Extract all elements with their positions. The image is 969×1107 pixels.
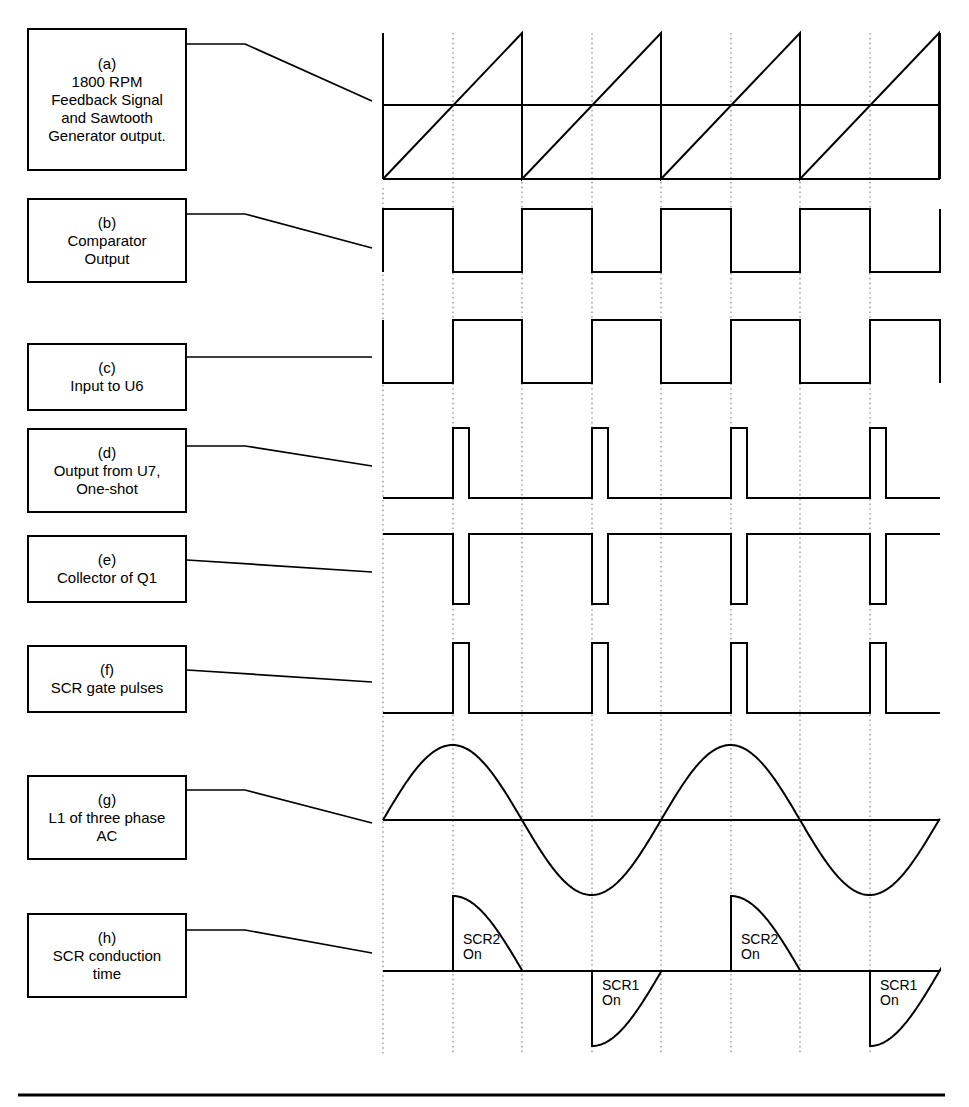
- label-c-line-1: Input to U6: [70, 377, 143, 395]
- waveform-b-comparator-output: [383, 209, 940, 272]
- label-e-tag: (e): [98, 551, 116, 569]
- scr-tag-4-state: On: [880, 993, 917, 1008]
- label-b-line-1: Comparator: [67, 232, 146, 250]
- label-b-line-2: Output: [84, 250, 129, 268]
- scr-tag-2-name: SCR1: [602, 978, 639, 993]
- leader-line-a: [187, 44, 372, 101]
- leader-line-d: [187, 446, 372, 466]
- waveform-g-ac-sine: [383, 745, 940, 895]
- label-e-line-1: Collector of Q1: [57, 569, 157, 587]
- label-box-b: (b) Comparator Output: [27, 198, 187, 283]
- scr-tag-3-state: On: [741, 947, 778, 962]
- scr-tag-3-name: SCR2: [741, 932, 778, 947]
- label-box-d: (d) Output from U7, One-shot: [27, 428, 187, 513]
- waveform-f-scr-gate-pulses: [383, 643, 940, 713]
- leader-line-e: [187, 560, 372, 572]
- label-box-h: (h) SCR conduction time: [27, 913, 187, 998]
- label-b-tag: (b): [98, 214, 116, 232]
- scr-tag-1-name: SCR2: [463, 932, 500, 947]
- label-box-f: (f) SCR gate pulses: [27, 645, 187, 713]
- label-box-c: (c) Input to U6: [27, 343, 187, 411]
- label-a-line-2: Feedback Signal: [51, 91, 163, 109]
- waveform-e-collector-q1: [383, 534, 940, 604]
- leader-lines: [187, 44, 372, 953]
- waveform-c-input-to-u6: [383, 320, 940, 383]
- leader-line-b: [187, 214, 372, 248]
- label-box-a: (a) 1800 RPM Feedback Signal and Sawtoot…: [27, 28, 187, 171]
- label-box-g: (g) L1 of three phase AC: [27, 775, 187, 860]
- label-d-line-1: Output from U7,: [54, 462, 161, 480]
- waveform-a-sawtooth: [383, 33, 939, 179]
- scr-conduction-tag-3: SCR2 On: [741, 932, 778, 962]
- label-d-tag: (d): [98, 444, 116, 462]
- waveform-traces: [383, 33, 940, 1046]
- label-a-line-1: 1800 RPM: [72, 73, 143, 91]
- leader-line-g: [187, 790, 372, 823]
- scr-conduction-tag-1: SCR2 On: [463, 932, 500, 962]
- scr-tag-4-name: SCR1: [880, 978, 917, 993]
- label-box-e: (e) Collector of Q1: [27, 535, 187, 603]
- label-g-line-1: L1 of three phase: [49, 809, 166, 827]
- scr-conduction-tag-2: SCR1 On: [602, 978, 639, 1008]
- vertical-gridlines: [383, 33, 870, 1055]
- label-h-line-2: time: [93, 965, 121, 983]
- label-c-tag: (c): [98, 359, 116, 377]
- waveform-figure: (a) 1800 RPM Feedback Signal and Sawtoot…: [0, 0, 969, 1107]
- label-a-line-4: Generator output.: [48, 127, 166, 145]
- leader-line-h: [187, 930, 372, 953]
- label-g-line-2: AC: [97, 827, 118, 845]
- waveform-d-one-shot-output: [383, 428, 940, 498]
- label-h-tag: (h): [98, 929, 116, 947]
- label-h-line-1: SCR conduction: [53, 947, 161, 965]
- scr-tag-1-state: On: [463, 947, 500, 962]
- leader-line-f: [187, 670, 372, 682]
- scr-tag-2-state: On: [602, 993, 639, 1008]
- label-f-line-1: SCR gate pulses: [51, 679, 164, 697]
- label-f-tag: (f): [100, 661, 114, 679]
- label-a-tag: (a): [98, 55, 116, 73]
- scr-conduction-tag-4: SCR1 On: [880, 978, 917, 1008]
- label-g-tag: (g): [98, 791, 116, 809]
- label-a-line-3: and Sawtooth: [61, 109, 153, 127]
- label-d-line-2: One-shot: [76, 480, 138, 498]
